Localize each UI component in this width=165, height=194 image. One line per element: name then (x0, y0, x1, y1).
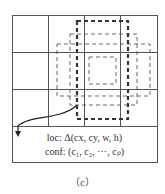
figure-caption: （c） (0, 174, 165, 189)
wide-box (57, 44, 150, 96)
conf-label: conf: (c₁, c₂, ⋯, cₚ) (12, 146, 157, 158)
diagram-canvas (0, 0, 165, 194)
inner-box (89, 57, 116, 84)
arrow-curve (18, 106, 76, 133)
loc-label: loc: Δ(cx, cy, w, h) (12, 132, 157, 144)
